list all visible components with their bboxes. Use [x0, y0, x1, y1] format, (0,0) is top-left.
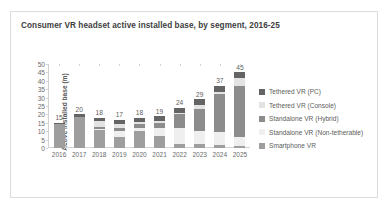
y-axis-tick-mark: [46, 131, 48, 132]
bar-total-label: 15: [55, 114, 62, 121]
bar-segment[interactable]: [114, 137, 125, 148]
bar-column[interactable]: 192021: [149, 64, 169, 148]
bar-segment[interactable]: [174, 114, 185, 127]
bar-segment[interactable]: [174, 128, 185, 144]
legend-item-label: Standalone VR (Hybrid): [269, 115, 339, 122]
x-axis-tick-label: 2025: [233, 151, 247, 158]
x-axis-tick-label: 2016: [52, 151, 66, 158]
legend-swatch-icon: [259, 102, 265, 108]
x-axis-tick-label: 2021: [152, 151, 166, 158]
bar-total-label: 24: [176, 99, 183, 106]
bar-segment[interactable]: [214, 145, 225, 148]
bar-segment[interactable]: [134, 131, 145, 148]
stacked-bar[interactable]: [74, 114, 85, 148]
bar-segment[interactable]: [194, 109, 205, 131]
bar-segment[interactable]: [194, 144, 205, 148]
axis-box: 50454035302520151050 1520162020171820181…: [48, 64, 250, 148]
y-axis-tick-label: 40: [38, 77, 45, 84]
chart-card: Consumer VR headset active installed bas…: [10, 11, 378, 198]
chart-title: Consumer VR headset active installed bas…: [21, 21, 280, 30]
y-axis-tick-mark: [46, 64, 48, 65]
bar-segment[interactable]: [214, 132, 225, 144]
y-axis-tick-label: 25: [38, 103, 45, 110]
bar-column[interactable]: 242022: [170, 64, 190, 148]
bar-total-label: 20: [75, 106, 82, 113]
bar-segment[interactable]: [234, 137, 245, 146]
bar-series-group: 1520162020171820181720191820201920212420…: [49, 64, 250, 148]
x-axis-tick-mark: [99, 64, 100, 66]
bar-column[interactable]: 172019: [109, 64, 129, 148]
legend-item[interactable]: Smartphone VR: [259, 142, 363, 149]
x-axis-tick-mark: [119, 64, 120, 66]
chart-plot-area: Active installed base (m) 50454035302520…: [38, 53, 250, 170]
stacked-bar[interactable]: [174, 108, 185, 148]
x-axis-tick-mark: [180, 64, 181, 66]
stacked-bar[interactable]: [194, 99, 205, 148]
bar-column[interactable]: 292023: [190, 64, 210, 148]
bar-segment[interactable]: [214, 94, 225, 133]
bar-segment[interactable]: [74, 117, 85, 148]
stacked-bar[interactable]: [154, 116, 165, 148]
stacked-bar[interactable]: [54, 123, 65, 148]
bar-column[interactable]: 202017: [69, 64, 89, 148]
y-axis-tick-label: 35: [38, 86, 45, 93]
x-axis-tick-label: 2022: [172, 151, 186, 158]
bar-column[interactable]: 152016: [49, 64, 69, 148]
bar-total-label: 19: [156, 108, 163, 115]
legend-item[interactable]: Tethered VR (Console): [259, 102, 363, 109]
screenshot-root: Consumer VR headset active installed bas…: [0, 0, 391, 211]
legend-swatch-icon: [259, 143, 265, 149]
y-axis-tick-mark: [46, 123, 48, 124]
x-axis-tick-label: 2018: [92, 151, 106, 158]
bar-column[interactable]: 182020: [129, 64, 149, 148]
bar-total-label: 29: [196, 91, 203, 98]
x-axis-tick-mark: [240, 64, 241, 66]
bar-segment[interactable]: [234, 86, 245, 136]
legend-swatch-icon: [259, 116, 265, 122]
y-axis-tick-label: 20: [38, 111, 45, 118]
x-axis-tick-mark: [59, 64, 60, 66]
y-axis-tick-mark: [46, 98, 48, 99]
legend-item[interactable]: Tethered VR (PC): [259, 88, 363, 95]
stacked-bar[interactable]: [214, 86, 225, 148]
x-axis-tick-label: 2023: [192, 151, 206, 158]
chart-legend: Tethered VR (PC)Tethered VR (Console)Sta…: [259, 88, 363, 149]
legend-item-label: Smartphone VR: [269, 142, 316, 149]
stacked-bar[interactable]: [114, 119, 125, 148]
bar-segment[interactable]: [174, 144, 185, 148]
stacked-bar[interactable]: [134, 118, 145, 148]
x-axis-tick-mark: [160, 64, 161, 66]
y-axis-tick-mark: [46, 140, 48, 141]
legend-item[interactable]: Standalone VR (Hybrid): [259, 115, 363, 122]
bar-segment[interactable]: [234, 146, 245, 148]
y-axis-tick-mark: [46, 72, 48, 73]
bar-segment[interactable]: [154, 136, 165, 148]
y-axis-tick-label: 10: [38, 128, 45, 135]
x-axis-tick-label: 2017: [72, 151, 86, 158]
bar-column[interactable]: 452025: [230, 64, 250, 148]
bar-segment[interactable]: [94, 130, 105, 148]
legend-swatch-icon: [259, 89, 265, 95]
x-axis-tick-mark: [139, 64, 140, 66]
legend-item-label: Standalone VR (Non-tetherable): [269, 129, 363, 136]
x-axis-tick-label: 2024: [213, 151, 227, 158]
y-axis-tick-mark: [46, 106, 48, 107]
bar-segment[interactable]: [154, 128, 165, 136]
y-axis-tick-label: 50: [38, 61, 45, 68]
stacked-bar[interactable]: [234, 72, 245, 148]
bar-total-label: 37: [216, 77, 223, 84]
y-axis-tick-label: 45: [38, 69, 45, 76]
x-axis-tick-mark: [79, 64, 80, 66]
x-axis-tick-label: 2019: [112, 151, 126, 158]
bar-segment[interactable]: [194, 131, 205, 145]
bar-column[interactable]: 182018: [89, 64, 109, 148]
stacked-bar[interactable]: [94, 118, 105, 148]
bar-segment[interactable]: [234, 78, 245, 86]
bar-column[interactable]: 372024: [210, 64, 230, 148]
bar-segment[interactable]: [54, 124, 65, 148]
legend-swatch-icon: [259, 129, 265, 135]
legend-item[interactable]: Standalone VR (Non-tetherable): [259, 129, 363, 136]
y-axis-tick-label: 5: [41, 136, 45, 143]
y-axis-tick-label: 15: [38, 119, 45, 126]
y-axis-tick-label: 30: [38, 94, 45, 101]
